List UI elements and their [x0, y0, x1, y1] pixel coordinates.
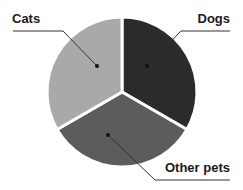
label-cats: Cats	[12, 11, 40, 26]
leader-dot-cats	[95, 64, 99, 68]
leader-dot-other-pets	[106, 133, 110, 137]
label-other-pets: Other pets	[165, 160, 230, 175]
pie-chart: Cats Dogs Other pets	[0, 0, 243, 190]
leader-dot-dogs	[145, 64, 149, 68]
label-dogs: Dogs	[198, 11, 231, 26]
